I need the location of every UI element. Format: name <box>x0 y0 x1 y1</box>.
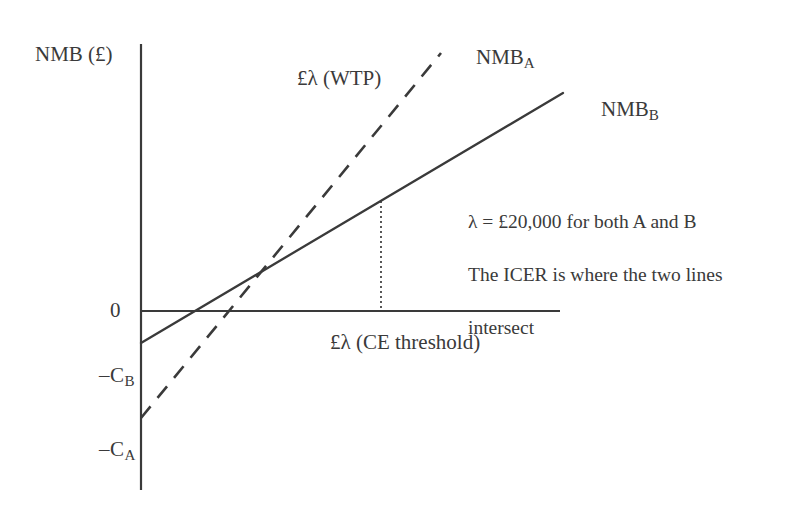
series-label-nmb-a: NMBA <box>455 26 535 92</box>
y-tick-cost-a-base: –C <box>99 437 125 461</box>
figure-canvas: NMB (£) £λ (WTP) £λ (CE threshold) 0 –CB… <box>0 0 787 514</box>
y-tick-cost-b: –CB <box>78 344 135 410</box>
series-label-nmb-a-subscript: A <box>524 55 535 71</box>
y-tick-zero: 0 <box>110 300 121 321</box>
icer-annotation-line-3: intersect <box>468 315 768 341</box>
y-tick-cost-a: –CA <box>78 418 135 484</box>
series-line-nmb-a <box>141 53 441 418</box>
series-label-nmb-a-base: NMB <box>476 45 524 69</box>
icer-annotation: λ = £20,000 for both A and B The ICER is… <box>468 183 768 367</box>
series-label-nmb-b-subscript: B <box>649 107 659 123</box>
y-tick-cost-b-base: –C <box>99 363 125 387</box>
icer-annotation-line-1: λ = £20,000 for both A and B <box>468 209 768 235</box>
ce-threshold-label: £λ (CE threshold) <box>330 332 480 353</box>
series-label-nmb-b-base: NMB <box>601 97 649 121</box>
y-tick-cost-a-subscript: A <box>125 447 136 463</box>
series-label-nmb-b: NMBB <box>580 78 659 144</box>
icer-annotation-line-2: The ICER is where the two lines <box>468 262 768 288</box>
y-axis-title: NMB (£) <box>35 44 113 65</box>
y-tick-cost-b-subscript: B <box>125 373 135 389</box>
wtp-label: £λ (WTP) <box>297 68 381 89</box>
